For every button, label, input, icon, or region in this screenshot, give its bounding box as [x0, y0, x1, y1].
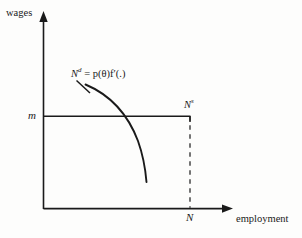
labour-supply-label-base: N [184, 99, 191, 110]
labour-supply-curve-label: Ns [184, 98, 194, 110]
labour-demand-curve-label: Nd = p(θ)f′(.) [71, 67, 125, 79]
x-axis-title: employment [236, 214, 289, 225]
y-axis-arrowhead [39, 11, 47, 22]
labour-market-diagram [0, 0, 302, 238]
labour-demand-label-base: N [71, 68, 78, 79]
demand-label-leader [77, 81, 91, 94]
x-axis-arrowhead [222, 204, 233, 212]
y-axis-tick-label-m: m [28, 110, 36, 121]
x-axis-tick-label-n: N [186, 212, 193, 223]
labour-demand-label-expression: = p(θ)f′(.) [82, 68, 126, 79]
labour-supply-label-superscript: s [191, 97, 194, 105]
y-axis-title: wages [6, 8, 32, 19]
labour-demand-curve [86, 85, 147, 183]
